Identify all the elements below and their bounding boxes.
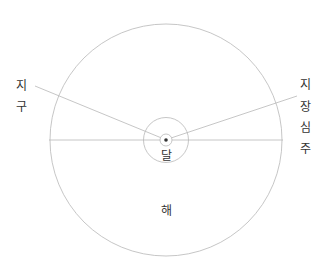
geocentric-label-char-4: 주 [300,142,311,156]
geocentric-label-char-1: 지 [300,78,311,92]
geocentric-label-char-3: 심 [300,121,311,135]
earth-label-char-2: 구 [16,100,27,114]
sun-label: 해 [161,204,172,218]
diagram-canvas [0,0,327,276]
earth-center-dot [164,138,168,142]
earth-pointer-line [35,86,164,139]
earth-label-char-1: 지 [16,79,27,93]
geocentric-label-char-2: 장 [300,100,311,114]
moon-label: 달 [161,149,172,163]
